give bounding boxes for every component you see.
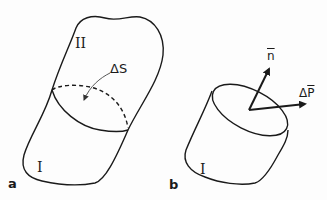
region-label-i-b: I <box>200 162 206 176</box>
diagram-drawing <box>0 0 327 200</box>
figure-label-b: b <box>169 178 178 191</box>
force-delta-symbol: Δ <box>299 86 307 100</box>
normal-vector-label: n <box>267 50 275 62</box>
section-back-arc-dashed <box>52 85 128 128</box>
figure-label-a: a <box>8 177 17 190</box>
force-vector-symbol: P <box>307 86 314 100</box>
section-front-arc <box>52 90 128 132</box>
force-vector-label: ΔP <box>299 87 314 99</box>
surface-label-delta-s: ΔS <box>110 62 127 75</box>
region-label-i-a: I <box>37 160 43 174</box>
diagram-canvas: II ΔS I a n ΔP I b <box>0 0 327 200</box>
body-outline-a <box>23 16 163 184</box>
region-label-ii: II <box>75 36 86 50</box>
